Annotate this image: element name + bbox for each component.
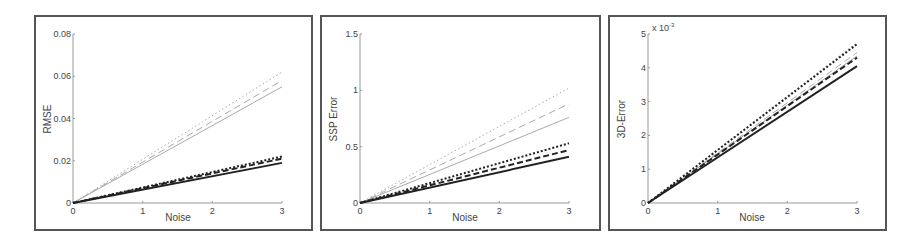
ssp-error-y-tick-label: 0.5 [345,142,358,152]
rmse-x-tick-label: 3 [279,206,284,216]
ssp-error-series-line [360,117,569,203]
rmse-y-tick-label: 0.02 [53,156,71,166]
charts-canvas: 00.020.040.060.08012300.511.501230123450… [0,0,909,238]
3d-error-x-tick-label: 2 [785,206,790,216]
3d-error-series-line [648,58,857,203]
ssp-error-y-tick-label: 1.5 [345,29,358,39]
rmse-series-line [73,80,282,203]
rmse-y-tick-label: 0.06 [53,71,71,81]
3d-error-y-tick-label: 4 [641,63,646,73]
rmse-x-tick-label: 0 [70,206,75,216]
ssp-error-x-tick-label: 2 [497,206,502,216]
ssp-error-x-tick-label: 3 [566,206,571,216]
rmse-x-tick-label: 2 [210,206,215,216]
3d-error-x-tick-label: 1 [715,206,720,216]
rmse-series-line [73,87,282,203]
3d-error-y-tick-label: 3 [641,97,646,107]
rmse-y-tick-label: 0.08 [53,29,71,39]
ssp-error-series-line [360,104,569,203]
rmse-y-tick-label: 0.04 [53,114,71,124]
ssp-error-x-tick-label: 0 [357,206,362,216]
ssp-error-x-tick-label: 1 [427,206,432,216]
ssp-error-series-line [360,157,569,203]
3d-error-series-line [648,44,857,203]
3d-error-series-line [648,66,857,203]
3d-error-series-line [648,42,857,203]
3d-error-y-tick-label: 1 [641,164,646,174]
3d-error-x-tick-label: 3 [854,206,859,216]
ssp-error-y-tick-label: 1 [353,85,358,95]
3d-error-x-tick-label: 0 [645,206,650,216]
ssp-error-series-line [360,88,569,203]
3d-error-y-tick-label: 5 [641,29,646,39]
3d-error-y-tick-label: 2 [641,130,646,140]
rmse-x-tick-label: 1 [140,206,145,216]
